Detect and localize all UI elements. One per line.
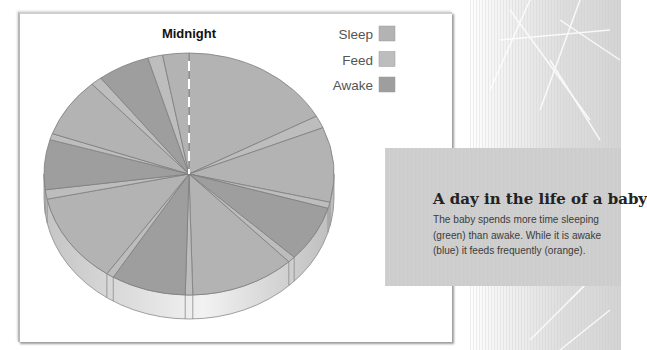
legend-swatch-awake [379,77,395,92]
info-title: A day in the life of a baby [433,190,647,208]
pie-top-face [44,53,334,295]
legend-swatch-feed [379,52,395,67]
legend-label-feed: Feed [342,53,373,68]
legend-label-sleep: Sleep [338,27,373,42]
legend-label-awake: Awake [333,78,373,93]
legend-swatch-sleep [379,26,395,41]
info-box: A day in the life of a baby The baby spe… [385,148,621,286]
midnight-label: Midnight [162,26,217,41]
chart-legend: SleepFeedAwake [333,26,395,93]
info-body: The baby spends more time sleeping (gree… [433,212,622,259]
